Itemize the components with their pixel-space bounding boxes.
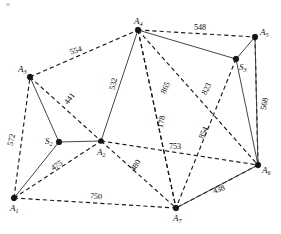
graph-node-a6: [255, 162, 261, 168]
graph-edge-a5-a6: [255, 37, 258, 165]
graph-edge-s3-a6: [236, 59, 258, 165]
node-label-a7: A7: [173, 214, 182, 223]
graph-edge-a3-a4: [30, 30, 138, 77]
graph-edge-a3-s2: [30, 77, 59, 142]
dashed-edge-group: [14, 30, 258, 208]
edge-weight-label: 548: [194, 24, 206, 32]
graph-edge-a4-a6: [138, 30, 258, 165]
solid-edge-group: [14, 30, 258, 208]
graph-node-a1: [11, 195, 17, 201]
graph-node-a4: [135, 27, 141, 33]
graph-edge-a4-a2: [101, 30, 138, 141]
node-label-a4: A4: [134, 17, 143, 26]
node-label-a5: A5: [260, 28, 269, 37]
node-label-a2: A2: [97, 148, 106, 157]
graph-node-a7: [173, 205, 179, 211]
graph-canvas: [0, 0, 281, 234]
graph-edge-a2-a7: [101, 141, 176, 208]
graph-edge-a3-a2: [30, 77, 101, 141]
node-label-a6: A6: [262, 166, 271, 175]
graph-node-s2: [56, 139, 62, 145]
graph-edge-a4-s3: [138, 30, 236, 59]
node-label-a1: A1: [10, 204, 19, 213]
edge-weight-label: 750: [90, 192, 103, 201]
graph-diagram-figure: 5545485725687504415328658237534804754388…: [0, 0, 281, 234]
edge-weight-label: 753: [169, 143, 181, 151]
node-label-s2: S2: [45, 137, 53, 146]
graph-node-a5: [252, 34, 258, 40]
node-label-s3: S3: [239, 63, 247, 72]
graph-node-a3: [27, 74, 33, 80]
scan-speck: [6, 3, 10, 6]
graph-edge-s3-a5: [236, 37, 255, 59]
graph-edge-a2-s2: [59, 141, 101, 142]
node-label-a3: A3: [18, 65, 27, 74]
graph-node-a2: [98, 138, 103, 143]
